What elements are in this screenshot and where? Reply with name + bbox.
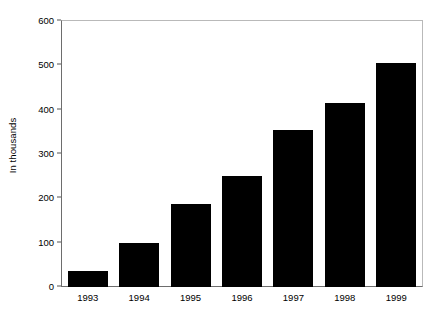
bar (119, 243, 159, 287)
x-axis-tick-label: 1999 (371, 292, 422, 303)
bar (325, 103, 365, 287)
bar-group (165, 21, 216, 287)
x-axis-tick-label: 1995 (165, 292, 216, 303)
y-axis-tick-label: 400 (38, 103, 54, 114)
bar-group (113, 21, 164, 287)
bar-group (371, 21, 422, 287)
x-axis-tick-label-group: 1993199419951996199719981999 (62, 292, 422, 303)
y-axis-tick-label: 100 (38, 236, 54, 247)
y-axis-title: In thousands (2, 0, 24, 290)
x-axis-tick-label: 1994 (113, 292, 164, 303)
y-axis-title-text: In thousands (8, 117, 19, 173)
bar (273, 130, 313, 287)
bar (68, 271, 108, 287)
bar-group (319, 21, 370, 287)
y-axis-tick-label: 200 (38, 192, 54, 203)
x-axis-tick-label: 1993 (62, 292, 113, 303)
bar-group (216, 21, 267, 287)
y-axis-tick-label-group: 0100200300400500600 (24, 20, 54, 286)
y-axis-tick-label: 500 (38, 59, 54, 70)
x-axis-tick-label: 1998 (319, 292, 370, 303)
bar-chart-figure: In thousands 0100200300400500600 1993199… (0, 0, 433, 317)
x-axis-tick-label: 1996 (216, 292, 267, 303)
y-axis-tick-label: 0 (49, 281, 54, 292)
bars-container (62, 21, 422, 287)
x-axis-tick-label: 1997 (268, 292, 319, 303)
bar (171, 204, 211, 287)
bar-group (62, 21, 113, 287)
y-axis-tick-label: 300 (38, 148, 54, 159)
y-axis-tick-label: 600 (38, 15, 54, 26)
bar (376, 63, 416, 287)
bar-group (268, 21, 319, 287)
bar (222, 176, 262, 287)
